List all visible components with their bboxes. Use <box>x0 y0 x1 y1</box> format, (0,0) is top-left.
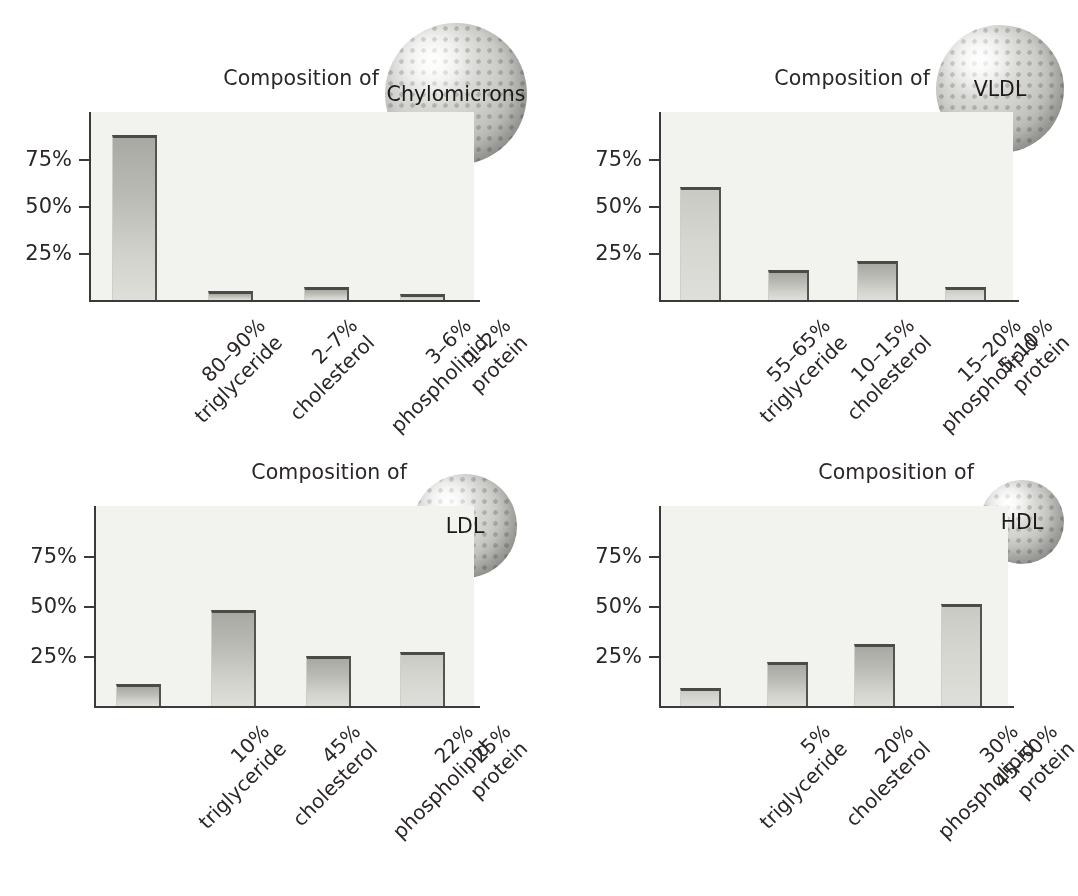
bar <box>680 688 721 706</box>
x-axis-line <box>659 706 1014 708</box>
lipoprotein-composition-figure: Composition ofChylomicrons80–90%triglyce… <box>0 0 1078 896</box>
plot-area: 25%50%75% <box>660 506 1008 706</box>
bar <box>400 652 445 706</box>
chart-panel-hdl: Composition ofHDL5%triglyceride20%choles… <box>539 448 1078 896</box>
plot-area: 25%50%75% <box>660 112 1013 300</box>
x-axis-category-label: 45%cholesterol <box>271 720 382 831</box>
bar <box>680 187 721 300</box>
y-axis-tick-label: 25% <box>595 241 642 265</box>
y-axis-tick-label: 50% <box>25 194 72 218</box>
bar <box>768 270 809 300</box>
x-axis-category-label: 55–65%triglyceride <box>739 314 853 428</box>
y-axis-tick-label: 25% <box>30 644 77 668</box>
y-axis-tick <box>649 206 660 208</box>
particle-name-label: Chylomicrons <box>385 82 527 106</box>
y-axis-tick <box>649 656 660 658</box>
x-axis-line <box>659 300 1019 302</box>
x-axis-category-label: 10–15%cholesterol <box>826 314 937 425</box>
y-axis-tick <box>649 159 660 161</box>
y-axis-tick <box>79 253 90 255</box>
y-axis-tick <box>79 159 90 161</box>
bar <box>306 656 351 706</box>
particle-name-label: HDL <box>980 510 1064 534</box>
y-axis-tick <box>649 253 660 255</box>
y-axis-tick <box>649 606 660 608</box>
bar <box>857 261 898 300</box>
y-axis-tick-label: 75% <box>595 147 642 171</box>
x-axis-category-label: 20%cholesterol <box>825 720 936 831</box>
y-axis-tick <box>84 556 95 558</box>
bar <box>854 644 895 706</box>
y-axis-tick-label: 50% <box>595 594 642 618</box>
y-axis-tick-label: 50% <box>595 194 642 218</box>
bar <box>116 684 161 706</box>
y-axis-tick <box>79 206 90 208</box>
x-axis-category-label: 2–7%cholesterol <box>268 314 379 425</box>
x-axis-category-label: 10%triglyceride <box>177 720 291 834</box>
y-axis-tick <box>84 656 95 658</box>
bar <box>208 291 253 300</box>
particle-name-label: VLDL <box>936 77 1064 101</box>
bar <box>767 662 808 706</box>
x-axis-line <box>89 300 480 302</box>
y-axis-tick-label: 25% <box>595 644 642 668</box>
x-axis-line <box>94 706 480 708</box>
bar <box>400 294 445 300</box>
chart-title: Composition of <box>818 460 974 484</box>
y-axis-tick <box>84 606 95 608</box>
y-axis-tick-label: 25% <box>25 241 72 265</box>
chart-title: Composition of <box>774 66 930 90</box>
bar <box>112 135 157 300</box>
chart-panel-vldl: Composition ofVLDL55–65%triglyceride10–1… <box>539 0 1078 448</box>
chart-panel-ldl: Composition ofLDL10%triglyceride45%chole… <box>0 448 539 896</box>
plot-area: 25%50%75% <box>90 112 474 300</box>
y-axis-tick-label: 75% <box>25 147 72 171</box>
bar <box>945 287 986 300</box>
chart-title: Composition of <box>223 66 379 90</box>
y-axis-tick-label: 75% <box>30 544 77 568</box>
y-axis-tick <box>649 556 660 558</box>
particle-name-label: LDL <box>413 514 517 538</box>
chart-panel-chylomicrons: Composition ofChylomicrons80–90%triglyce… <box>0 0 539 448</box>
x-axis-category-label: 80–90%triglyceride <box>173 314 287 428</box>
y-axis-tick-label: 50% <box>30 594 77 618</box>
bar <box>941 604 982 706</box>
y-axis-tick-label: 75% <box>595 544 642 568</box>
x-axis-category-label: 5%triglyceride <box>739 720 853 834</box>
chart-title: Composition of <box>251 460 407 484</box>
bar <box>211 610 256 706</box>
bar <box>304 287 349 300</box>
